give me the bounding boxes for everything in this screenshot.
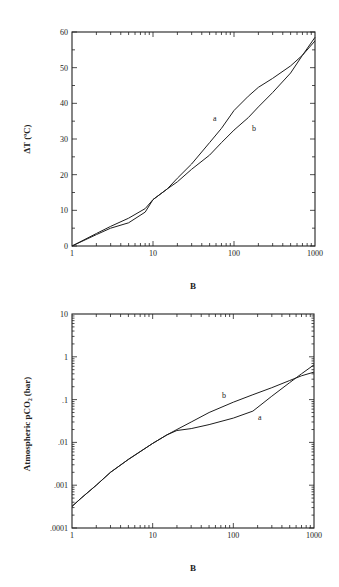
delta-t-chart: 1101001000 0102030405060 a b B ΔT (ºC) xyxy=(22,28,323,291)
y-axis-title: Atmospheric pCO₂ (bar) xyxy=(22,377,32,472)
axis-ticks xyxy=(72,32,315,246)
y-tick-labels: 0102030405060 xyxy=(60,28,68,251)
series-a-line xyxy=(72,365,314,507)
y-tick-label: 20 xyxy=(60,171,68,180)
x-tick-label: 1000 xyxy=(307,249,323,258)
y-tick-label: .1 xyxy=(62,396,68,405)
y-tick-label: 60 xyxy=(60,28,68,37)
series-b-line xyxy=(72,41,315,246)
y-tick-label: 10 xyxy=(60,310,68,319)
plot-frame xyxy=(72,32,315,246)
series-b-label: b xyxy=(252,124,256,133)
y-tick-label: .01 xyxy=(58,438,68,447)
series-a-line xyxy=(72,37,315,246)
y-tick-label: 30 xyxy=(60,135,68,144)
x-tick-label: 10 xyxy=(149,531,157,540)
x-tick-label: 1000 xyxy=(306,531,322,540)
x-axis-title: B xyxy=(190,563,196,573)
x-tick-labels: 1101001000 xyxy=(70,249,323,258)
x-tick-label: 10 xyxy=(149,249,157,258)
y-tick-label: 50 xyxy=(60,64,68,73)
pco2-chart: 1101001000 .0001.001.01.1110 b a B Atmos… xyxy=(22,310,322,573)
y-axis-title: ΔT (ºC) xyxy=(22,124,32,153)
y-tick-label: 1 xyxy=(64,353,68,362)
y-tick-label: 40 xyxy=(60,99,68,108)
series-a-label: a xyxy=(213,114,217,123)
x-tick-label: 100 xyxy=(228,249,240,258)
x-tick-labels: 1101001000 xyxy=(70,531,322,540)
series-a-label: a xyxy=(258,413,262,422)
y-tick-label: .001 xyxy=(54,481,68,490)
y-tick-label: .0001 xyxy=(50,524,68,533)
x-axis-title: B xyxy=(190,281,196,291)
y-tick-label: 0 xyxy=(64,242,68,251)
figure: 1101001000 0102030405060 a b B ΔT (ºC) 1… xyxy=(0,0,339,587)
x-tick-label: 1 xyxy=(70,249,74,258)
x-tick-label: 1 xyxy=(70,531,74,540)
y-tick-labels: .0001.001.01.1110 xyxy=(50,310,68,533)
x-tick-label: 100 xyxy=(227,531,239,540)
y-tick-label: 10 xyxy=(60,206,68,215)
series-b-label: b xyxy=(222,391,226,400)
